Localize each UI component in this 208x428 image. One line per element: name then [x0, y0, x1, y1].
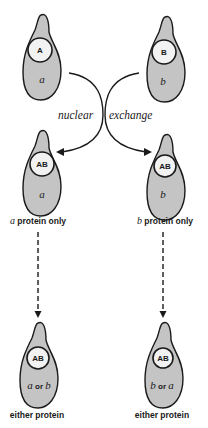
caption-rest: protein only	[15, 216, 66, 226]
cell-top-right: B b	[147, 16, 185, 102]
arrowhead-right	[144, 148, 152, 156]
nuclear-exchange-diagram: A a B b nuclear exchange AB a a protein …	[0, 0, 208, 428]
exchange-label-nuclear: nuclear	[58, 109, 94, 121]
cell-middle-left: AB a	[23, 130, 61, 216]
caption-b-protein-only: b protein only	[137, 215, 193, 226]
exchange-label-exchange: exchange	[109, 109, 152, 122]
caption-a-protein-only: a protein only	[10, 215, 66, 226]
caption-rest: protein only	[142, 216, 193, 226]
cytoplasm-label: b	[160, 188, 166, 200]
cyto-or: or	[33, 382, 45, 391]
nucleus-label: AB	[36, 160, 48, 169]
caption-either-protein-left: either protein	[10, 410, 64, 420]
cytoplasm-label: a	[39, 188, 45, 200]
cell-middle-right: AB b	[147, 134, 185, 220]
cytoplasm-label: a	[39, 73, 45, 85]
caption-either-protein-right: either protein	[135, 410, 189, 420]
cell-bottom-right: AB b or a	[145, 322, 183, 408]
cytoplasm-label: b	[160, 75, 166, 87]
nucleus-label: AB	[32, 354, 44, 363]
nucleus-label: AB	[159, 162, 171, 171]
arrowhead-left	[56, 148, 64, 156]
cyto-or: or	[156, 382, 168, 391]
arrowhead-down-right	[160, 311, 167, 318]
cyto-second: a	[168, 379, 174, 391]
arrowhead-down-left	[35, 311, 42, 318]
cell-bottom-left: AB a or b	[20, 322, 58, 408]
cyto-second: b	[45, 379, 51, 391]
nucleus-label: AB	[157, 354, 169, 363]
cell-top-left: A a	[23, 14, 61, 100]
nucleus-label: A	[37, 46, 43, 55]
nucleus-label: B	[161, 48, 167, 57]
